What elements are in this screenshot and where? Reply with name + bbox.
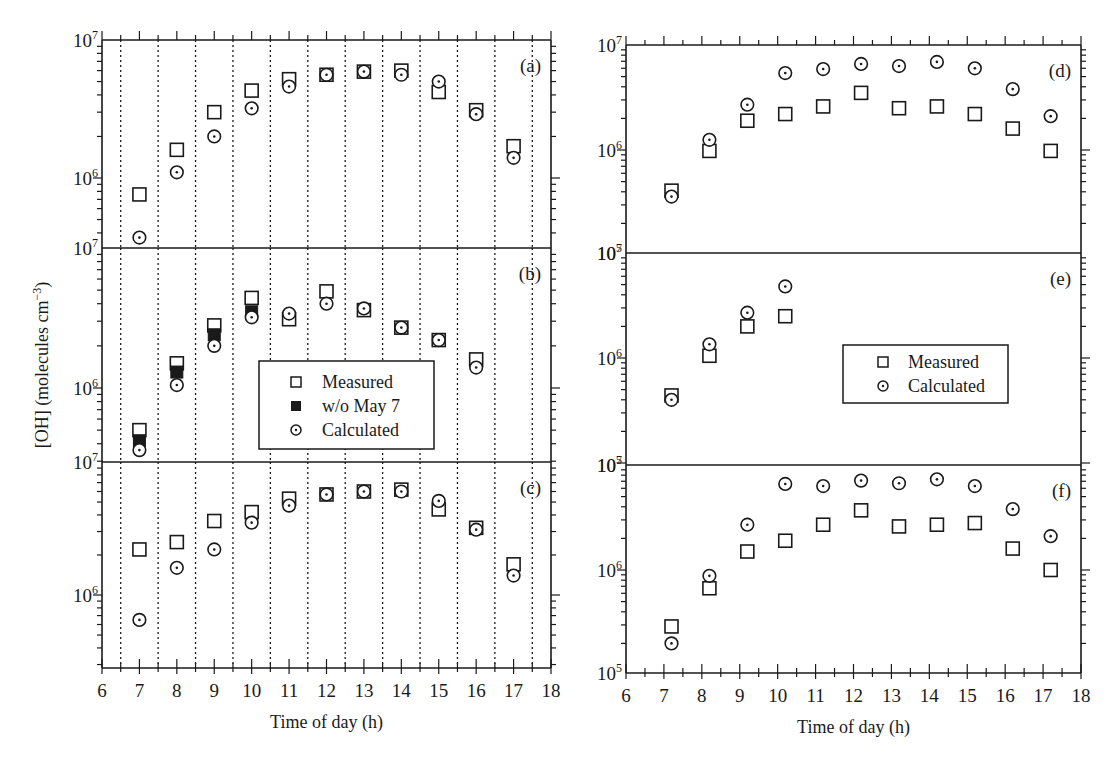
calculated-marker-dot [288,85,291,88]
svg-text:10: 10 [73,378,92,399]
svg-text:10: 10 [73,585,92,606]
calculated-marker-dot [974,485,977,488]
panel-label: (e) [1050,268,1071,290]
measured-marker [779,310,792,323]
y-axis-title-text: [OH] (molecules cm−3) [30,282,53,449]
x-tick-label: 10 [768,685,787,706]
calculated-marker-dot [176,384,179,387]
measured-marker [703,582,716,595]
svg-text:10: 10 [597,35,616,56]
calculated-marker-dot [325,493,328,496]
calculated-marker-dot [325,302,328,305]
calculated-marker-dot [400,490,403,493]
calculated-marker-dot [670,398,673,401]
x-tick-label: 8 [697,685,707,706]
calculated-marker-dot [784,483,787,486]
calculated-marker-dot [250,316,253,319]
measured-marker [855,504,868,517]
svg-text:6: 6 [616,346,622,360]
calculated-marker-dot [138,449,141,452]
calculated-marker-dot [860,63,863,66]
panel-label: (c) [520,477,541,499]
calculated-marker-dot [708,139,711,142]
panel-label: (b) [519,263,541,285]
panel-f: 1071061056789101112131415161718Time of d… [597,453,1091,738]
calculated-marker-dot [213,548,216,551]
measured-marker [855,86,868,99]
x-tick-label: 11 [280,680,298,701]
calculated-marker-dot [213,135,216,138]
y-tick-label: 106 [73,583,98,606]
measured-marker [133,543,146,556]
calculated-marker-dot [1049,535,1052,538]
measured-marker [208,106,221,119]
measured-marker [133,188,146,201]
measured-marker [741,114,754,127]
measured-marker [741,320,754,333]
measured-marker [817,518,830,531]
svg-text:7: 7 [616,241,622,255]
svg-text:10: 10 [73,452,92,473]
panel-a: 107106(a) [73,28,560,248]
calculated-marker-dot [437,339,440,342]
calculated-marker-dot [437,500,440,503]
calculated-marker-dot [213,345,216,348]
svg-text:10: 10 [597,560,616,581]
measured-marker [893,102,906,115]
svg-text:7: 7 [92,28,98,42]
calculated-marker-dot [1011,508,1014,511]
svg-text:10: 10 [597,140,616,161]
svg-text:10: 10 [73,30,92,51]
y-tick-label: 107 [597,453,622,476]
svg-text:10: 10 [73,238,92,259]
calculated-marker-dot [746,523,749,526]
svg-text:6: 6 [616,138,622,152]
measured-marker [170,143,183,156]
calculated-marker-dot [512,574,515,577]
calculated-marker-dot [512,157,515,160]
y-tick-label: 106 [73,166,98,189]
figure-canvas: 107106(a)107106(b)1071066789101112131415… [0,0,1118,762]
x-tick-label: 15 [429,680,448,701]
panel-label: (d) [1049,60,1071,82]
legend-label: Calculated [322,420,399,440]
y-tick-label: 107 [73,28,98,51]
measured-marker [245,84,258,97]
x-tick-label: 18 [1072,685,1091,706]
svg-text:10: 10 [597,663,616,684]
x-tick-label: 10 [242,680,261,701]
measured-marker [665,620,678,633]
svg-text:10: 10 [597,455,616,476]
x-tick-label: 16 [996,685,1015,706]
y-tick-label: 107 [597,33,622,56]
calculated-marker-dot [250,521,253,524]
calculated-marker-dot [138,619,141,622]
calculated-marker-dot [475,113,478,116]
measured-marker [208,515,221,528]
calculated-marker-dot [822,68,825,71]
measured-marker [930,100,943,113]
svg-text:7: 7 [616,33,622,47]
svg-text:7: 7 [92,236,98,250]
x-tick-label: 8 [172,680,182,701]
x-tick-label: 13 [882,685,901,706]
calculated-marker-dot [288,504,291,507]
legend-label: Measured [322,372,393,392]
calculated-marker-dot [784,72,787,75]
legend-label: Measured [908,352,979,372]
svg-text:6: 6 [92,583,98,597]
x-tick-label: 9 [210,680,220,701]
x-tick-label: 13 [354,680,373,701]
calculated-marker-dot [708,343,711,346]
calculated-marker-dot [363,307,366,310]
calculated-marker-dot [746,311,749,314]
calculated-marker-dot [822,485,825,488]
x-tick-label: 14 [392,680,412,701]
calculated-marker-dot [936,61,939,64]
calculated-marker-dot [325,73,328,76]
svg-text:5: 5 [616,661,622,675]
calculated-marker-dot [746,103,749,106]
svg-text:10: 10 [597,243,616,264]
calculated-marker-dot [670,642,673,645]
measured-marker [968,517,981,530]
